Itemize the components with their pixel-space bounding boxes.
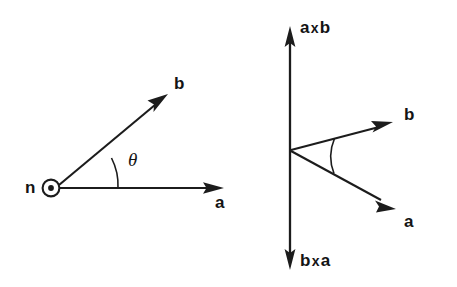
right-label-vector-b: b: [404, 106, 414, 123]
left-panel-group: [43, 94, 224, 196]
a-cross-b-operator-icon: x: [310, 20, 320, 36]
right-vector-a-shaft: [291, 151, 381, 200]
b-cross-a-operand-first: b: [300, 251, 311, 270]
right-vector-b-shaft: [291, 127, 379, 150]
right-angle-arc: [331, 139, 335, 174]
left-vector-b-shaft: [59, 102, 159, 185]
left-label-angle-theta: θ: [128, 150, 137, 169]
right-label-vector-a: a: [404, 213, 413, 230]
b-cross-a-operator-icon: x: [311, 253, 321, 269]
a-cross-b-operand-first: a: [300, 18, 310, 37]
left-label-vector-a: a: [215, 194, 224, 211]
right-vector-b-arrowhead: [371, 121, 393, 133]
a-cross-b-operand-second: b: [320, 18, 331, 37]
right-label-b-cross-a: bxa: [300, 252, 331, 269]
figure-root: n a b θ axb bxa b a: [0, 0, 457, 287]
left-label-normal-n: n: [25, 179, 35, 196]
right-label-a-cross-b: axb: [300, 19, 331, 36]
left-label-vector-b: b: [174, 75, 184, 92]
figure-canvas: [0, 0, 457, 287]
normal-out-of-page-dot-icon: [48, 185, 54, 191]
right-vector-a-arrowhead: [375, 201, 396, 213]
b-cross-a-operand-second: a: [321, 251, 331, 270]
right-panel-group: [285, 26, 396, 270]
left-angle-arc: [112, 158, 119, 188]
